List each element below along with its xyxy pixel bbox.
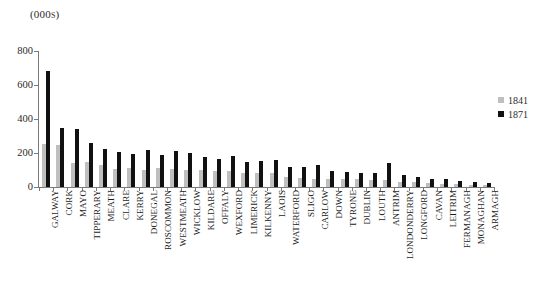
x-label-monaghan: MONAGHAN bbox=[476, 190, 486, 244]
legend-label-1871: 1871 bbox=[508, 109, 528, 120]
x-label-tyrone: TYRONE bbox=[348, 190, 358, 227]
bar-1871 bbox=[416, 177, 420, 187]
bar-group bbox=[252, 51, 266, 187]
y-tick-label-400: 400 bbox=[7, 113, 33, 124]
bar-group bbox=[466, 51, 480, 187]
x-label-leitrim: LEITRIM bbox=[448, 190, 458, 227]
bar-group bbox=[409, 51, 423, 187]
bar-1871 bbox=[330, 171, 334, 187]
legend-item-1841: 1841 bbox=[498, 93, 528, 107]
bar-group bbox=[224, 51, 238, 187]
bar-1871 bbox=[231, 156, 235, 187]
x-label-donegal: DONEGAL bbox=[149, 190, 159, 234]
x-label-roscommon: ROSCOMMON bbox=[163, 190, 173, 250]
x-label-down: DOWN bbox=[334, 190, 344, 218]
bar-group bbox=[423, 51, 437, 187]
x-label-cavan: CAVAN bbox=[434, 190, 444, 220]
bar-group bbox=[281, 51, 295, 187]
x-axis-category-labels: GALWAYCORKMAYOTIPPERARYMEATHCLAREKERRYDO… bbox=[39, 190, 494, 285]
x-label-kilkenny: KILKENNY bbox=[263, 190, 273, 237]
bar-group bbox=[82, 51, 96, 187]
bar-1871 bbox=[174, 151, 178, 187]
x-label-meath: MEATH bbox=[106, 190, 116, 222]
bar-group bbox=[238, 51, 252, 187]
x-label-offaly: OFFALY bbox=[220, 190, 230, 224]
x-label-dublin: DUBLIN bbox=[362, 190, 372, 225]
bar-1871 bbox=[103, 149, 107, 187]
y-tick-800 bbox=[34, 51, 38, 52]
y-tick-600 bbox=[34, 85, 38, 86]
bar-group bbox=[210, 51, 224, 187]
x-label-wexford: WEXFORD bbox=[234, 190, 244, 235]
bar-group bbox=[366, 51, 380, 187]
x-label-sligo: SLIGO bbox=[306, 190, 316, 217]
bar-1871 bbox=[302, 167, 306, 187]
x-label-longford: LONGFORD bbox=[419, 190, 429, 240]
bar-group bbox=[167, 51, 181, 187]
x-label-galway: GALWAY bbox=[50, 190, 60, 228]
bar-group bbox=[153, 51, 167, 187]
x-label-laois: LAOIS bbox=[277, 190, 287, 217]
bar-group bbox=[480, 51, 494, 187]
y-tick-label-800: 800 bbox=[7, 45, 33, 56]
bar-1871 bbox=[245, 162, 249, 187]
bar-chart-figure: (000s) 0200400600800 GALWAYCORKMAYOTIPPE… bbox=[0, 0, 536, 285]
y-tick-label-600: 600 bbox=[7, 79, 33, 90]
bar-1871 bbox=[46, 71, 50, 187]
y-tick-200 bbox=[34, 153, 38, 154]
bar-1871 bbox=[316, 165, 320, 187]
cropped-title-strip bbox=[0, 0, 536, 9]
bar-1871 bbox=[89, 143, 93, 187]
bar-1871 bbox=[146, 150, 150, 187]
x-label-mayo: MAYO bbox=[78, 190, 88, 217]
legend-swatch-1841 bbox=[498, 97, 504, 103]
x-label-cork: CORK bbox=[64, 190, 74, 215]
bar-1871 bbox=[160, 155, 164, 187]
bar-1871 bbox=[473, 182, 477, 187]
x-label-louth: LOUTH bbox=[377, 190, 387, 221]
x-label-fermanagh: FERMANAGH bbox=[462, 190, 472, 248]
bar-group bbox=[267, 51, 281, 187]
units-label: (000s) bbox=[30, 8, 59, 20]
bar-1871 bbox=[458, 181, 462, 187]
bar-group bbox=[380, 51, 394, 187]
bar-group bbox=[352, 51, 366, 187]
bar-group bbox=[39, 51, 53, 187]
bar-1871 bbox=[288, 167, 292, 187]
x-label-kerry: KERRY bbox=[135, 190, 145, 221]
bar-1871 bbox=[402, 175, 406, 187]
bar-1871 bbox=[373, 173, 377, 187]
bar-group bbox=[394, 51, 408, 187]
bar-group bbox=[53, 51, 67, 187]
bar-group bbox=[96, 51, 110, 187]
x-label-westmeath: WESTMEATH bbox=[178, 190, 188, 246]
bar-group bbox=[139, 51, 153, 187]
x-label-armagh: ARMAGH bbox=[490, 190, 500, 231]
bar-1871 bbox=[487, 183, 491, 187]
legend-swatch-1871 bbox=[498, 111, 504, 117]
legend-item-1871: 1871 bbox=[498, 107, 528, 121]
bar-1871 bbox=[75, 129, 79, 187]
bar-1871 bbox=[117, 152, 121, 187]
bar-group bbox=[295, 51, 309, 187]
bar-1871 bbox=[359, 173, 363, 187]
y-tick-label-200: 200 bbox=[7, 147, 33, 158]
x-label-waterford: WATERFORD bbox=[291, 190, 301, 245]
x-label-carlow: CARLOW bbox=[320, 190, 330, 230]
bar-group bbox=[323, 51, 337, 187]
x-label-limerick: LIMERICK bbox=[249, 190, 259, 234]
bar-1871 bbox=[345, 172, 349, 187]
x-label-tipperary: TIPPERARY bbox=[92, 190, 102, 239]
bar-group bbox=[451, 51, 465, 187]
chart-legend: 18411871 bbox=[498, 93, 528, 121]
bar-group bbox=[181, 51, 195, 187]
bar-1871 bbox=[217, 159, 221, 187]
bar-group bbox=[124, 51, 138, 187]
bar-group bbox=[67, 51, 81, 187]
bar-1871 bbox=[274, 160, 278, 187]
bar-series-container bbox=[39, 51, 494, 187]
bar-group bbox=[437, 51, 451, 187]
bar-group bbox=[338, 51, 352, 187]
bar-1871 bbox=[131, 154, 135, 187]
bar-1871 bbox=[430, 179, 434, 188]
